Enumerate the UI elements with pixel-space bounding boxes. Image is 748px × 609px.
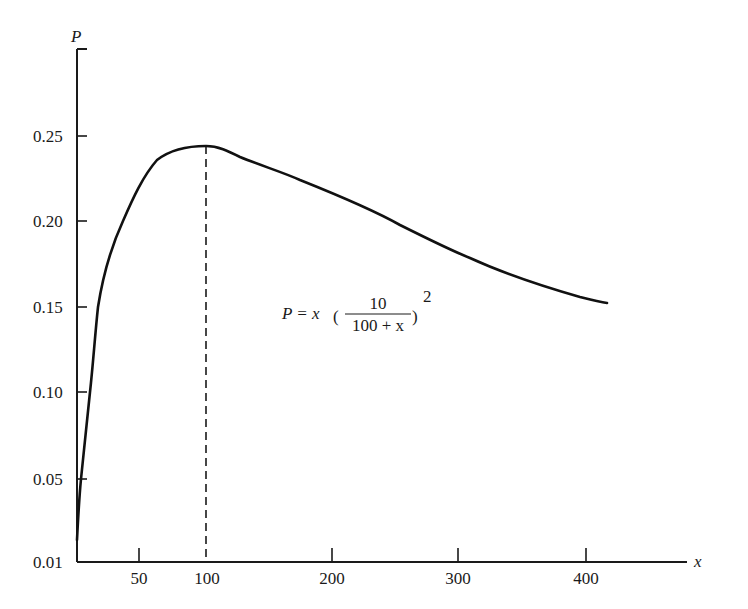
- y-tick-label-005: 0.05: [33, 470, 63, 489]
- formula-annotation: P = x ( 10 100 + x ) 2: [281, 287, 432, 335]
- formula-exponent: 2: [423, 287, 432, 306]
- y-tick-label-001: 0.01: [33, 553, 63, 572]
- formula-lhs: P = x: [281, 304, 320, 323]
- y-tick-label-020: 0.20: [33, 212, 63, 231]
- formula-numerator: 10: [370, 294, 387, 313]
- x-tick-label-100: 100: [194, 569, 220, 588]
- y-tick-label-025: 0.25: [33, 127, 63, 146]
- x-tick-label-300: 300: [445, 569, 471, 588]
- x-tick-label-200: 200: [319, 569, 345, 588]
- formula-denominator: 100 + x: [352, 316, 405, 335]
- formula-close-paren: ): [412, 307, 418, 326]
- y-tick-label-010: 0.10: [33, 383, 63, 402]
- formula-open-paren: (: [333, 307, 339, 326]
- x-tick-label-400: 400: [573, 569, 599, 588]
- x-axis-label: x: [693, 552, 702, 571]
- y-tick-label-015: 0.15: [33, 298, 63, 317]
- curve-line: [77, 146, 607, 540]
- chart-canvas: 0.25 0.20 0.15 0.10 0.05 0.01 50 100 200…: [0, 0, 748, 609]
- y-axis-label: P: [70, 27, 81, 46]
- x-tick-label-50: 50: [131, 569, 148, 588]
